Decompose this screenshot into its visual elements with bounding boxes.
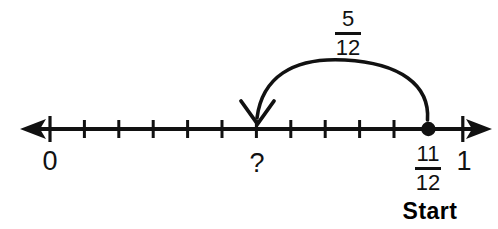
- number-line-figure: 5 12 0 ? 11 12 1 Start: [0, 0, 498, 229]
- start-point-numerator: 11: [417, 143, 440, 165]
- start-point-fraction: 11 12: [415, 143, 441, 194]
- axis-label-zero: 0: [42, 148, 57, 175]
- jump-amount-numerator: 5: [342, 8, 354, 30]
- jump-amount-fraction: 5 12: [335, 8, 361, 59]
- start-point-denominator: 12: [416, 172, 440, 194]
- axis-label-one: 1: [456, 148, 471, 175]
- unknown-point-label: ?: [249, 150, 264, 177]
- start-point-dot: [421, 122, 435, 136]
- start-annotation: Start: [403, 198, 458, 225]
- jump-amount-denominator: 12: [336, 37, 360, 59]
- jump-arc: [257, 60, 428, 120]
